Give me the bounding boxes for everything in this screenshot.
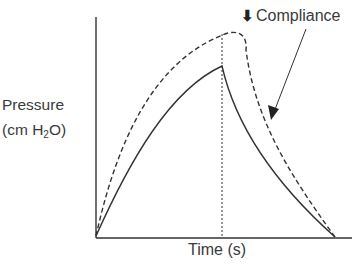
pressure-time-diagram [0, 0, 360, 275]
annotation-pointer-line [274, 29, 306, 112]
normal-compliance-curve [96, 66, 335, 237]
annotation-pointer-arrowhead [268, 105, 279, 120]
decreased-compliance-curve [96, 32, 335, 237]
